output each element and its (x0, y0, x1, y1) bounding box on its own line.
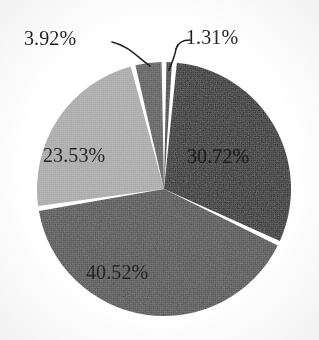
pie-label-1-31: 1.31% (186, 27, 238, 47)
pie-label-3-92: 3.92% (24, 28, 76, 48)
pie-chart-figure: 3.92% 1.31% 30.72% 40.52% 23.53% (0, 0, 319, 340)
pie-label-40-52: 40.52% (86, 262, 148, 282)
pie-chart-svg (0, 0, 319, 340)
pie-label-23-53: 23.53% (43, 145, 105, 165)
pie-label-30-72: 30.72% (187, 146, 249, 166)
